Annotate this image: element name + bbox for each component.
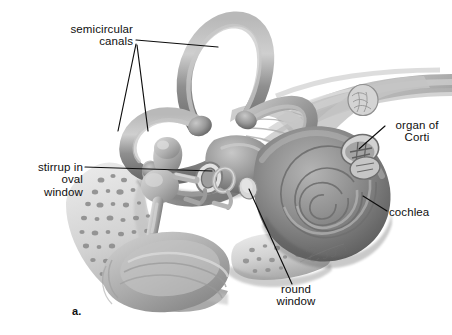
label-round-window: round window — [265, 283, 327, 308]
inner-ear-figure: semicircular canals stirrup in oval wind… — [0, 0, 452, 335]
label-semicircular-canals: semicircular canals — [22, 23, 133, 48]
label-cochlea: cochlea — [389, 206, 449, 218]
leader-semicircular-2 — [118, 44, 136, 131]
nerve-cross-section — [348, 85, 378, 116]
label-organ-of-corti: organ of Corti — [384, 119, 450, 144]
figure-panel-label: a. — [72, 305, 92, 317]
label-stirrup-in-oval-window: stirrup in oval window — [2, 161, 83, 198]
